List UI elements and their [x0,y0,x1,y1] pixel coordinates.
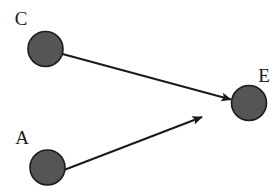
node-e[interactable]: E [232,65,270,121]
node-a[interactable]: A [15,127,65,185]
node-label-c: C [15,8,28,29]
edge-a-to-e [64,117,202,170]
edge-line-c-e [63,54,232,100]
node-circle-e[interactable] [232,86,267,121]
node-circle-c[interactable] [28,32,63,67]
node-circle-a[interactable] [30,150,65,185]
node-c[interactable]: C [15,8,63,67]
graph-diagram: C E A [0,0,280,192]
graph-canvas: C E A [0,0,280,192]
node-label-e: E [258,65,270,86]
node-label-a: A [15,127,29,148]
edge-c-to-e [63,54,232,100]
edge-line-a-e [64,117,202,170]
